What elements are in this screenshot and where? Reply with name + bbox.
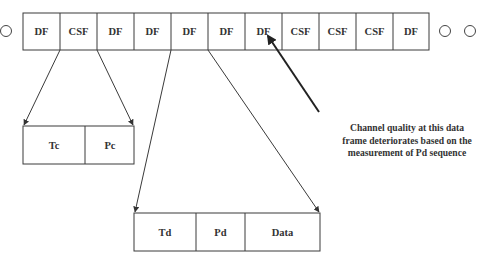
annotation-note: Channel quality at this data frame deter… <box>322 122 488 160</box>
df-expand-arrow-right <box>208 50 319 212</box>
csf-field: Tc <box>49 140 60 151</box>
frame-cell: CSF <box>69 26 89 37</box>
annotation-line: Channel quality at this data <box>322 122 488 135</box>
frame-sequence: DF CSF DF DF DF DF DF CSF CSF CSF DF <box>23 13 429 50</box>
frame-cell: DF <box>404 26 418 37</box>
frame-cell: DF <box>257 26 271 37</box>
annotation-arrow <box>268 36 319 112</box>
csf-field: Pc <box>104 140 115 151</box>
frame-cell: DF <box>109 26 123 37</box>
df-field: Data <box>272 227 294 238</box>
frame-cell: CSF <box>365 26 385 37</box>
df-structure: Td Pd Data <box>134 213 320 251</box>
csf-expand-arrow-left <box>24 50 60 125</box>
annotation-line: frame deteriorates based on the <box>322 135 488 148</box>
ellipsis-circle-left <box>1 26 12 37</box>
frame-cell: DF <box>35 26 49 37</box>
df-field: Td <box>159 227 172 238</box>
frame-cell: DF <box>183 26 197 37</box>
csf-structure: Tc Pc <box>23 126 134 164</box>
annotation-line: measurement of Pd sequence <box>322 147 488 160</box>
frame-cell: CSF <box>328 26 348 37</box>
csf-expand-arrow-right <box>97 50 133 125</box>
ellipsis-circle-right-2 <box>465 26 476 37</box>
frame-cell: CSF <box>291 26 311 37</box>
df-expand-arrow-left <box>135 50 171 212</box>
ellipsis-circle-right-1 <box>440 26 451 37</box>
frame-cell: DF <box>146 26 160 37</box>
df-field: Pd <box>214 227 226 238</box>
frame-cell: DF <box>220 26 234 37</box>
